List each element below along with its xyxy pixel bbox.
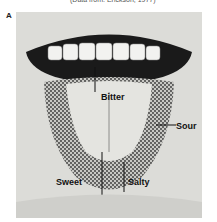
source-caption: (Data from: Erickson, 1977)	[70, 0, 156, 3]
label-salty: Salty	[128, 177, 150, 187]
tongue-illustration	[16, 12, 202, 218]
label-sweet: Sweet	[56, 177, 82, 187]
label-sour: Sour	[176, 121, 197, 131]
panel-letter: A	[6, 11, 12, 20]
label-bitter: Bitter	[101, 92, 125, 102]
tongue-photo	[16, 12, 202, 218]
